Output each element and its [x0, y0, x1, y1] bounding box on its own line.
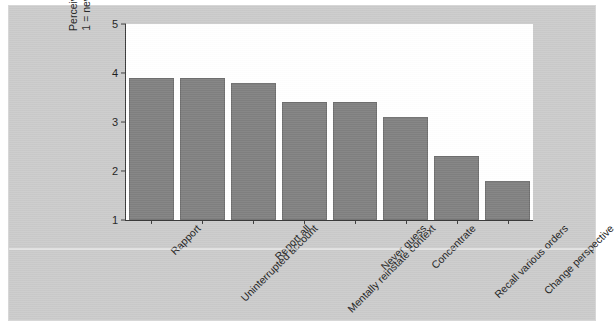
x-axis-labels: RapportUninterrupted accountReport allMe… [126, 222, 533, 318]
y-axis-title-line2: 1 = never, 5 = always [80, 0, 93, 56]
bar-series [126, 24, 533, 220]
y-tick-label: 5 [112, 19, 118, 30]
y-tick-label: 4 [112, 68, 118, 79]
y-axis-title-line1: Perceived usefulness [67, 0, 80, 56]
x-tick-label: Mentally reinstate context [345, 222, 438, 315]
bar [231, 83, 276, 220]
y-tick-label: 1 [112, 215, 118, 226]
bar [383, 117, 428, 220]
plot-area: 12345 [126, 24, 533, 220]
bar [333, 102, 378, 220]
bar [180, 78, 225, 220]
y-axis-title: Perceived usefulness 1 = never, 5 = alwa… [67, 0, 93, 56]
x-axis-line [125, 220, 533, 221]
figure-panel: Perceived usefulness 1 = never, 5 = alwa… [8, 5, 596, 321]
bar [434, 156, 479, 220]
y-tick-label: 2 [112, 166, 118, 177]
x-tick-label: Rapport [168, 222, 203, 257]
bar [485, 181, 530, 220]
bar [129, 78, 174, 220]
bar [282, 102, 327, 220]
y-tick-label: 3 [112, 117, 118, 128]
